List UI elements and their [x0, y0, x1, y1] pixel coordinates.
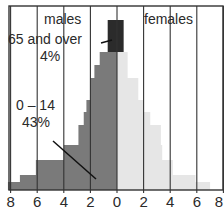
bar-55-64 — [94, 65, 117, 78]
old-age-label: 65 and over — [8, 32, 82, 47]
bar-25-34 — [84, 112, 117, 125]
x-tick-label: 0 — [113, 193, 121, 210]
x-tick-label: 8 — [215, 193, 223, 210]
bar-65+ (b) — [108, 20, 117, 52]
x-tick-label: 4 — [60, 193, 68, 210]
bar-25-34 — [117, 112, 150, 125]
x-tick-label: 6 — [33, 193, 41, 210]
bar-65+ (a) — [100, 52, 117, 65]
old-age-percent: 4% — [40, 49, 60, 64]
x-tick-label: 8 — [6, 193, 14, 210]
female-bars — [117, 20, 210, 190]
x-tick-label: 2 — [139, 193, 147, 210]
bar-10-14 — [117, 160, 173, 175]
bar-0-4 — [8, 182, 117, 190]
bar-15-19 — [117, 145, 162, 160]
females-label: females — [144, 12, 193, 27]
bar-35-44 — [86, 100, 117, 112]
males-label: males — [44, 12, 81, 27]
bar-45-54 — [117, 78, 138, 100]
bar-5-9 — [20, 175, 117, 182]
young-age-percent: 43% — [22, 115, 50, 130]
bar-55-64 — [117, 65, 128, 78]
young-age-label: 0 – 14 — [16, 98, 55, 113]
x-tick-label: 4 — [166, 193, 174, 210]
x-tick-label: 6 — [193, 193, 201, 210]
x-tick-label: 2 — [86, 193, 94, 210]
bar-0-4 — [117, 182, 210, 190]
bar-20-24 — [78, 125, 117, 145]
bar-35-44 — [117, 100, 144, 112]
bar-5-9 — [117, 175, 195, 182]
bar-45-54 — [90, 78, 117, 100]
bar-65+ (a) — [117, 52, 128, 65]
bar-20-24 — [117, 125, 161, 145]
bar-65+ (b) — [117, 20, 124, 52]
